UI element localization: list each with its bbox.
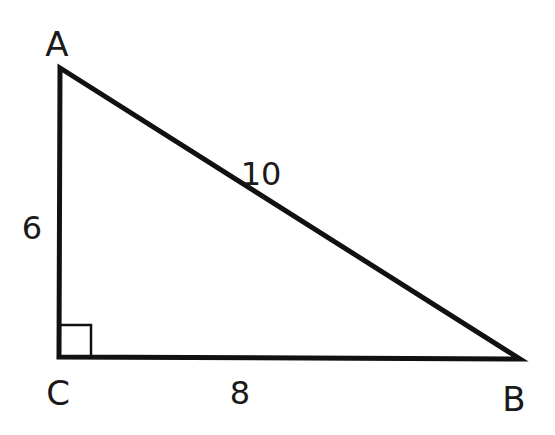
triangle-abc [59,68,520,359]
side-label-cb: 8 [230,374,250,412]
vertex-label-a: A [45,24,68,64]
vertex-label-c: C [46,373,70,413]
triangle-diagram: A C B 6 8 10 [0,0,555,435]
right-angle-marker [59,325,91,357]
side-label-ac: 6 [22,209,42,247]
side-label-ab: 10 [241,155,282,193]
vertex-label-b: B [502,379,525,419]
